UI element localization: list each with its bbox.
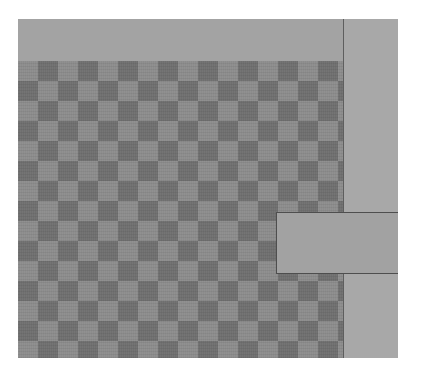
vertical-divider bbox=[343, 19, 344, 358]
right-column bbox=[344, 19, 398, 358]
checkerboard-area bbox=[18, 61, 343, 358]
gray-panel bbox=[18, 19, 398, 358]
noise-texture bbox=[18, 61, 343, 358]
overlay-rectangle bbox=[276, 212, 398, 274]
header-band bbox=[18, 19, 343, 61]
